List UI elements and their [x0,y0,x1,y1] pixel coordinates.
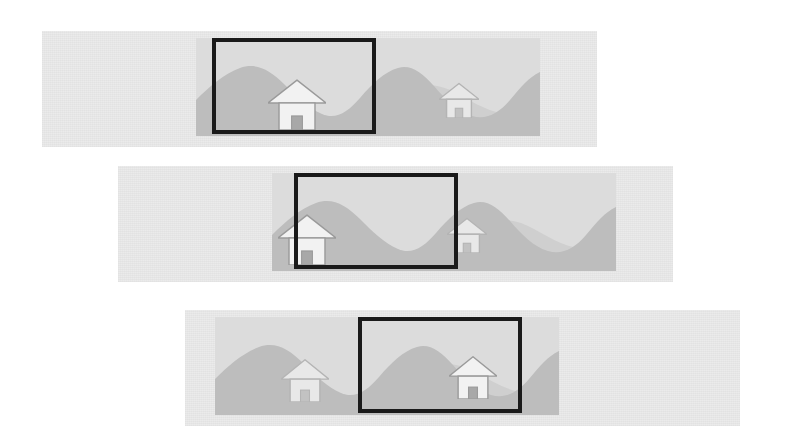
house-icon [281,358,329,402]
house-icon [439,82,479,118]
house-small-icon [439,83,479,118]
house-small-3 [281,358,329,402]
crop-window-1[interactable] [212,38,376,134]
crop-window-3[interactable] [358,317,522,413]
figure-stage [0,0,798,444]
crop-window-2[interactable] [294,173,458,269]
house-small-icon [281,360,329,402]
house-small-1 [439,82,479,118]
